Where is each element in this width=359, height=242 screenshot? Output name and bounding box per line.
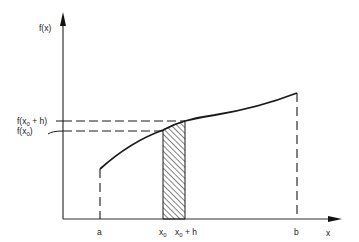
leader-line-fx0 [48, 131, 63, 134]
hatched-strip [163, 121, 185, 219]
svg-text:f(x0): f(x0) [17, 126, 33, 137]
y-axis-label: f(x) [39, 23, 51, 33]
y-tick-fx0: f(x0) [17, 126, 63, 137]
diagram-canvas: f(x) x f(x0 + h) f(x0) [0, 0, 359, 242]
x-tick-x0h: x0 + h [175, 227, 197, 238]
x-axis-arrow-icon [328, 216, 342, 222]
y-axis [60, 12, 66, 219]
x-tick-b: b [294, 227, 299, 237]
x-tick-x0: x0 [159, 227, 167, 238]
x-axis-label: x [326, 228, 331, 238]
x-tick-a: a [97, 227, 102, 237]
x-tick-x0h-suffix: + h [183, 227, 198, 237]
y-tick-fx0-post: ) [30, 126, 33, 136]
x-tick-x0-sub: 0 [163, 232, 167, 238]
diagram-figure: f(x) x f(x0 + h) f(x0) [0, 0, 359, 242]
y-tick-fx0h-post: + h) [30, 116, 47, 126]
y-axis-arrow-icon [60, 12, 66, 26]
x-axis [63, 216, 342, 222]
